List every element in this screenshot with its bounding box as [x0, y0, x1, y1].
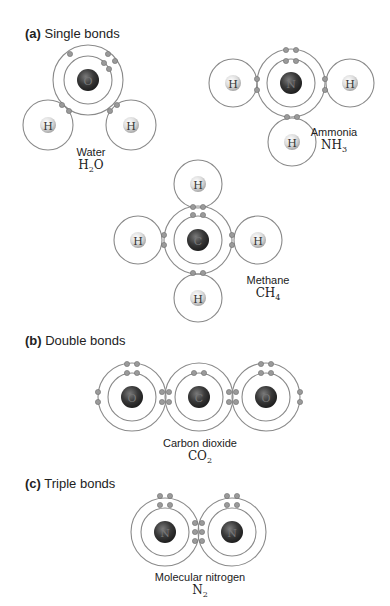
molecule-formula: CO2 [163, 450, 237, 467]
atom-symbol: H [43, 120, 53, 133]
atom-symbol: N [286, 78, 296, 91]
atom-symbol: O [83, 75, 92, 88]
atom-symbol: N [227, 527, 237, 540]
atom-symbol: H [193, 293, 203, 306]
atom-symbol: O [127, 392, 136, 405]
water-label: Water H2O [77, 146, 106, 176]
atom-symbol: H [133, 235, 143, 248]
atom-symbol: C [195, 392, 203, 405]
atom-symbol: H [193, 179, 203, 192]
atom-symbol: H [253, 235, 263, 248]
atom-symbol: N [160, 527, 170, 540]
carbon-dioxide-molecule: O C O [95, 361, 302, 431]
molecule-formula: CH4 [247, 287, 290, 304]
methane-label: Methane CH4 [247, 274, 290, 304]
atom-symbol: O [261, 392, 270, 405]
atom-symbol: H [126, 120, 136, 133]
molecule-formula: N2 [155, 584, 246, 601]
nitrogen-label: Molecular nitrogen N2 [155, 571, 246, 601]
water-molecule: O H H [23, 45, 156, 150]
atom-symbol: H [287, 137, 297, 150]
atom-symbol: H [345, 78, 355, 91]
bond-diagram: O H H N H H H [0, 0, 390, 606]
atom-symbol: H [228, 78, 238, 91]
atom-symbol: C [194, 235, 202, 248]
nitrogen-molecule: N N [131, 493, 266, 566]
molecule-formula: H2O [77, 159, 106, 176]
ammonia-label: Ammonia NH3 [311, 126, 357, 156]
molecule-formula: NH3 [311, 139, 357, 156]
carbon-dioxide-label: Carbon dioxide CO2 [163, 437, 237, 467]
